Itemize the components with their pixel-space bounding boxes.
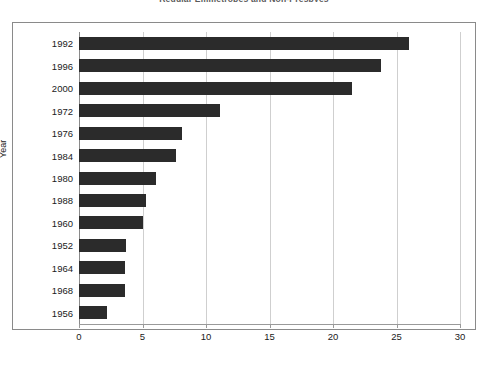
- y-tick-label: 1984: [52, 150, 73, 161]
- x-tick-mark: [270, 324, 271, 328]
- x-gridline: [460, 32, 461, 324]
- bar: [79, 149, 176, 162]
- y-tick-label: 1996: [52, 60, 73, 71]
- x-tick-label: 5: [140, 331, 145, 342]
- bar: [79, 306, 107, 319]
- y-tick-label: 1960: [52, 217, 73, 228]
- bar: [79, 104, 220, 117]
- x-tick-mark: [79, 324, 80, 328]
- y-tick-label: 1976: [52, 128, 73, 139]
- y-tick-label: 1992: [52, 38, 73, 49]
- y-tick-label: 1980: [52, 173, 73, 184]
- y-tick-label: 1968: [52, 285, 73, 296]
- x-tick-mark: [143, 324, 144, 328]
- bar: [79, 127, 182, 140]
- bar: [79, 261, 125, 274]
- y-tick-label: 1988: [52, 195, 73, 206]
- x-tick-mark: [333, 324, 334, 328]
- bar: [79, 216, 143, 229]
- x-tick-label: 10: [201, 331, 212, 342]
- bar: [79, 194, 146, 207]
- bar: [79, 172, 156, 185]
- chart-title: Regular Emmetropes and Non-Presbyes: [0, 0, 488, 2]
- bar-chart: Regular Emmetropes and Non-Presbyes Year…: [0, 0, 488, 377]
- x-tick-mark: [397, 324, 398, 328]
- x-tick-label: 0: [76, 331, 81, 342]
- x-gridline: [206, 32, 207, 324]
- x-tick-label: 20: [328, 331, 339, 342]
- y-axis-tick-labels: 1992199620001972197619841980198819601952…: [0, 0, 73, 377]
- y-tick-label: 1952: [52, 240, 73, 251]
- y-tick-label: 1964: [52, 262, 73, 273]
- plot-area: [79, 32, 460, 324]
- x-gridline: [333, 32, 334, 324]
- y-tick-label: 2000: [52, 83, 73, 94]
- x-tick-mark: [460, 324, 461, 328]
- bar: [79, 284, 125, 297]
- bar: [79, 59, 381, 72]
- x-gridline: [270, 32, 271, 324]
- y-tick-label: 1956: [52, 307, 73, 318]
- x-tick-label: 15: [264, 331, 275, 342]
- bar: [79, 37, 409, 50]
- bar: [79, 82, 352, 95]
- bar: [79, 239, 126, 252]
- y-tick-label: 1972: [52, 105, 73, 116]
- x-gridline: [397, 32, 398, 324]
- x-tick-label: 30: [455, 331, 466, 342]
- x-tick-mark: [206, 324, 207, 328]
- x-tick-label: 25: [391, 331, 402, 342]
